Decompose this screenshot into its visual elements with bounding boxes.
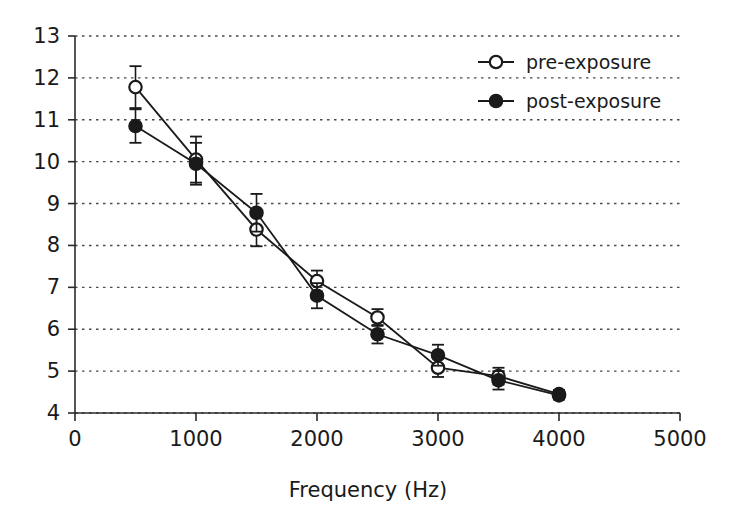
legend-label: post-exposure [526,90,661,112]
y-tick-label: 5 [47,359,60,383]
x-axis-title: Frequency (Hz) [289,478,447,502]
x-tick-marks [75,413,680,421]
data-series-layer [129,66,565,401]
y-tick-label: 6 [47,317,60,341]
legend-item-post-exposure[interactable]: post-exposure [478,90,661,112]
y-tick-label: 8 [47,233,60,257]
y-tick-labels: 45678910111213 [33,24,60,425]
chart-container: 45678910111213 010002000300040005000 pre… [0,0,736,522]
chart-legend: pre-exposurepost-exposure [478,51,661,112]
data-point-marker [190,158,202,170]
data-point-marker [129,81,141,93]
data-point-marker [129,120,141,132]
y-tick-label: 12 [33,66,60,90]
data-point-marker [250,207,262,219]
data-point-marker [371,311,383,323]
legend-marker-open-circle [490,56,502,68]
x-tick-label: 4000 [532,427,585,451]
y-tick-label: 10 [33,150,60,174]
data-point-marker [553,389,565,401]
y-tick-label: 4 [47,401,60,425]
data-point-marker [432,349,444,361]
y-tick-label: 13 [33,24,60,48]
y-tick-label: 9 [47,192,60,216]
data-point-marker [371,328,383,340]
y-tick-marks [68,36,75,413]
y-tick-label: 7 [47,275,60,299]
legend-label: pre-exposure [526,51,651,73]
legend-marker-filled-circle [490,95,502,107]
x-tick-labels: 010002000300040005000 [68,427,706,451]
x-tick-label: 3000 [411,427,464,451]
x-tick-label: 1000 [169,427,222,451]
line-chart-plot: 45678910111213 010002000300040005000 pre… [0,0,736,522]
legend-item-pre-exposure[interactable]: pre-exposure [478,51,651,73]
data-point-marker [492,374,504,386]
x-tick-label: 2000 [290,427,343,451]
x-tick-label: 5000 [653,427,706,451]
series-line [136,87,560,394]
data-point-marker [311,290,323,302]
x-tick-label: 0 [68,427,81,451]
series-pre-exposure [129,66,565,400]
y-tick-label: 11 [33,108,60,132]
